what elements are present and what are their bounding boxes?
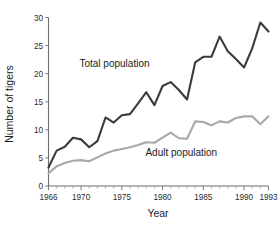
y-tick-label: 0 [38,182,43,191]
y-tick-label: 5 [38,154,43,163]
y-axis-title: Number of tigers [3,65,15,143]
chart-figure: 051015202530 196619701975198019851990199… [0,0,278,227]
x-tick-label: 1980 [153,193,172,202]
y-tick-label: 10 [34,126,44,135]
tiger-population-line-chart: 051015202530 196619701975198019851990199… [0,0,278,227]
x-axis-title: Year [147,207,169,219]
x-tick-label: 1966 [39,193,58,202]
x-tick-label: 1990 [235,193,254,202]
y-tick-label: 20 [34,70,44,79]
x-tick-label: 1993 [259,193,278,202]
x-tick-label: 1975 [113,193,132,202]
x-tick-label: 1985 [194,193,213,202]
y-tick-label: 15 [34,98,44,107]
series-label-adult-population: Adult population [145,147,217,158]
y-tick-label: 25 [34,42,44,51]
x-tick-label: 1970 [72,193,91,202]
series-label-total-population: Total population [79,58,149,69]
y-tick-label: 30 [34,14,44,23]
